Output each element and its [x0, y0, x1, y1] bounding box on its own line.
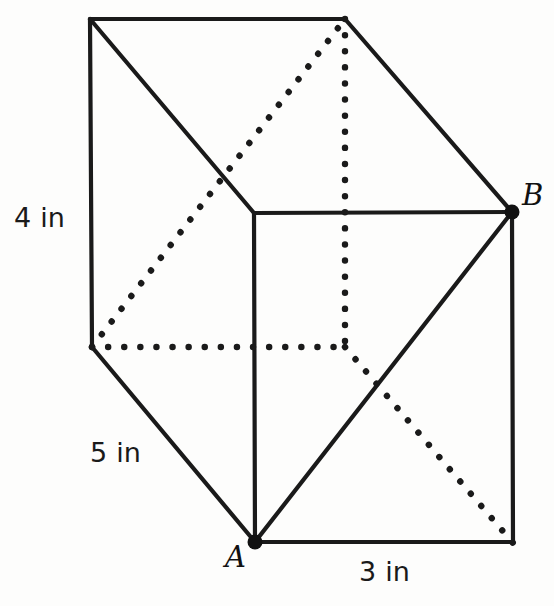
edge-front-left-vertical: [254, 213, 255, 542]
hidden-diagonal-lower-right: [345, 347, 513, 543]
point-label-a: A: [225, 540, 246, 574]
visible-edges: [90, 19, 513, 542]
dimension-label-width: 3 in: [359, 556, 410, 587]
vertex-dot-a: [248, 535, 263, 550]
edge-top-right-diagonal: [345, 19, 512, 212]
point-label-b: B: [522, 178, 543, 212]
edge-right-vertical: [512, 212, 513, 542]
edge-left-vertical: [90, 19, 92, 347]
dimension-label-height: 4 in: [14, 202, 65, 233]
prism-drawing: [0, 0, 554, 606]
edge-top-front: [254, 212, 512, 213]
geometry-figure: 4 in 5 in 3 in A B: [0, 0, 554, 606]
vertex-dot-b: [505, 205, 520, 220]
edge-top-left-diagonal: [90, 19, 254, 213]
dimension-label-depth: 5 in: [90, 437, 141, 468]
